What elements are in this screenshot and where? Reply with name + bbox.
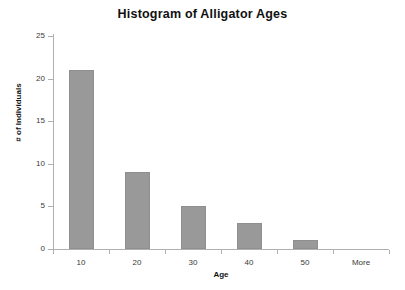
- y-axis-tick: [48, 164, 53, 165]
- y-axis-tick-label: 0: [5, 245, 45, 253]
- y-axis-tick-label: 5: [5, 202, 45, 210]
- x-axis-tick-label: 10: [51, 258, 111, 267]
- y-axis-tick-label: 20: [5, 75, 45, 83]
- x-axis-tick-label: 50: [275, 258, 335, 267]
- histogram-chart: Histogram of Alligator Ages # of Individ…: [0, 0, 405, 290]
- x-axis-tick: [165, 250, 166, 254]
- chart-title: Histogram of Alligator Ages: [0, 7, 405, 21]
- y-axis-tick: [48, 206, 53, 207]
- x-axis-title: Age: [53, 270, 389, 279]
- y-axis-tick-label: 15: [5, 117, 45, 125]
- bar: [125, 172, 150, 249]
- bar: [293, 240, 318, 249]
- bar: [237, 223, 262, 249]
- bar: [181, 206, 206, 249]
- y-axis-tick: [48, 79, 53, 80]
- x-axis-tick-label: More: [331, 258, 391, 267]
- x-axis-tick-label: 40: [219, 258, 279, 267]
- x-axis-tick-label: 30: [163, 258, 223, 267]
- plot-area: [53, 36, 388, 249]
- x-axis-tick: [277, 250, 278, 254]
- x-axis-tick: [221, 250, 222, 254]
- y-axis-tick: [48, 36, 53, 37]
- x-axis-tick: [109, 250, 110, 254]
- x-axis-tick: [333, 250, 334, 254]
- y-axis-tick-label: 10: [5, 160, 45, 168]
- y-axis-tick-label: 25: [5, 32, 45, 40]
- x-axis-tick-label: 20: [107, 258, 167, 267]
- bar: [69, 70, 94, 249]
- x-axis-tick: [389, 250, 390, 254]
- y-axis-tick: [48, 121, 53, 122]
- x-axis-tick: [53, 250, 54, 254]
